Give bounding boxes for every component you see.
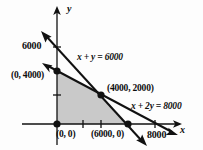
point-label-0-4000: (0, 4000): [11, 71, 44, 81]
line-label-x-plus-y-6000: x + y = 6000: [77, 53, 123, 63]
y-tick-label-6000: 6000: [22, 41, 41, 51]
point-origin: [53, 120, 60, 127]
feasible-region-shading: [57, 71, 128, 124]
point-label-4000-2000: (4000, 2000): [107, 84, 154, 94]
line-label-x-plus-2y-8000: x + 2y = 8000: [131, 102, 181, 112]
x-axis-label: x: [180, 125, 185, 135]
point-6000-0: [124, 120, 131, 127]
y-axis-label: y: [67, 4, 71, 14]
linear-programming-figure: y x 6000 8000 (0, 4000) (4000, 2000) (0,…: [0, 0, 203, 150]
point-label-6000-0: (6000, 0): [91, 130, 124, 140]
point-4000-2000: [97, 91, 104, 98]
point-label-origin: (0, 0): [56, 130, 75, 140]
x-tick-label-8000: 8000: [147, 130, 166, 140]
point-0-4000: [53, 67, 60, 74]
